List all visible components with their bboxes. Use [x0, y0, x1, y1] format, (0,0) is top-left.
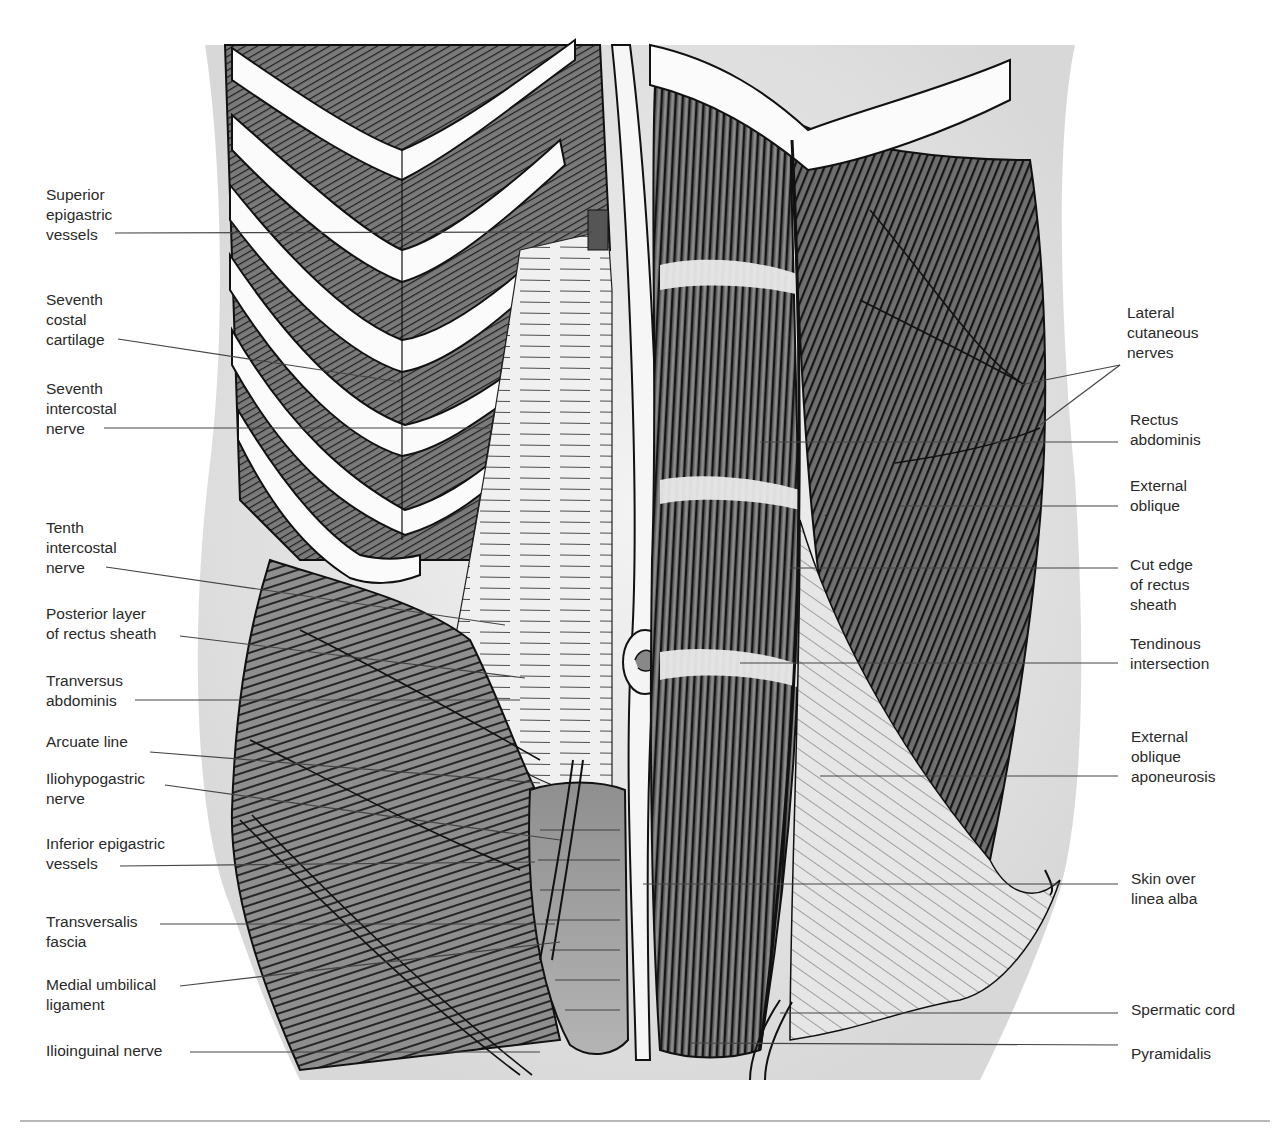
label-tranversus-abdominis: Tranversus abdominis — [46, 671, 123, 711]
label-transversalis-fascia: Transversalis fascia — [46, 912, 138, 952]
label-iliohypogastric-nerve: Iliohypogastric nerve — [46, 769, 145, 809]
label-tendinous-intersection: Tendinous intersection — [1130, 634, 1209, 674]
label-arcuate-line: Arcuate line — [46, 732, 128, 752]
label-ilioinguinal-nerve: Ilioinguinal nerve — [46, 1041, 162, 1061]
label-seventh-intercostal-nerve: Seventh intercostal nerve — [46, 379, 117, 439]
label-cut-edge-rectus-sheath: Cut edge of rectus sheath — [1130, 555, 1193, 615]
caption-divider-rule — [20, 1120, 1270, 1122]
label-tenth-intercostal-nerve: Tenth intercostal nerve — [46, 518, 117, 578]
label-posterior-layer-rectus-sheath: Posterior layer of rectus sheath — [46, 604, 156, 644]
label-seventh-costal-cartilage: Seventh costal cartilage — [46, 290, 105, 350]
label-external-oblique-aponeurosis: External oblique aponeurosis — [1131, 727, 1215, 787]
label-superior-epigastric-vessels: Superior epigastric vessels — [46, 185, 112, 245]
anatomy-figure — [0, 0, 1288, 1138]
abdominal-wall-illustration — [0, 0, 1288, 1138]
label-rectus-abdominis: Rectus abdominis — [1130, 410, 1201, 450]
label-inferior-epigastric-vessels: Inferior epigastric vessels — [46, 834, 165, 874]
label-skin-over-linea-alba: Skin over linea alba — [1131, 869, 1197, 909]
label-lateral-cutaneous-nerves: Lateral cutaneous nerves — [1127, 303, 1199, 363]
label-pyramidalis: Pyramidalis — [1131, 1044, 1211, 1064]
label-medial-umbilical-ligament: Medial umbilical ligament — [46, 975, 156, 1015]
label-spermatic-cord: Spermatic cord — [1131, 1000, 1235, 1020]
label-external-oblique: External oblique — [1130, 476, 1187, 516]
